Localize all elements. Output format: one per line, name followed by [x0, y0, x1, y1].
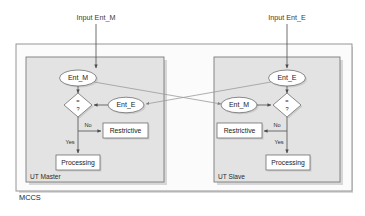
ut-slave-yes-label: Yes — [274, 139, 283, 145]
ut-master-yes-label: Yes — [65, 139, 74, 145]
ut-master-no-label: No — [84, 122, 91, 128]
mccs-label: MCCS — [19, 193, 41, 202]
ut-slave-decision-operator: = — [285, 98, 288, 104]
mccs-flow-diagram: MCCS UT Master Input Ent_M Ent_M = ? Ent… — [0, 0, 365, 216]
ut-slave-ent-m-text: Ent_M — [229, 101, 249, 109]
ut-master-label: UT Master — [30, 173, 61, 180]
diagram-canvas: MCCS UT Master Input Ent_M Ent_M = ? Ent… — [0, 0, 365, 216]
ut-master-decision-operator: = — [76, 98, 79, 104]
ut-master-ent-e-text: Ent_E — [116, 101, 135, 109]
ut-master-processing-text: Processing — [61, 159, 95, 167]
input-ent-e-label: Input Ent_E — [268, 13, 306, 22]
input-ent-m-label: Input Ent_M — [77, 13, 116, 22]
ut-slave-ent-e-text: Ent_E — [277, 74, 296, 82]
ut-master-decision-query: ? — [76, 106, 79, 112]
ut-slave-decision-query: ? — [285, 106, 288, 112]
ut-slave-processing-text: Processing — [271, 159, 305, 167]
ut-slave-label: UT Slave — [218, 173, 245, 180]
ut-master-ent-m-text: Ent_M — [68, 74, 88, 82]
ut-master-restrictive-text: Restrictive — [110, 127, 142, 134]
ut-slave-no-label: No — [273, 122, 280, 128]
ut-slave-restrictive-text: Restrictive — [224, 127, 256, 134]
